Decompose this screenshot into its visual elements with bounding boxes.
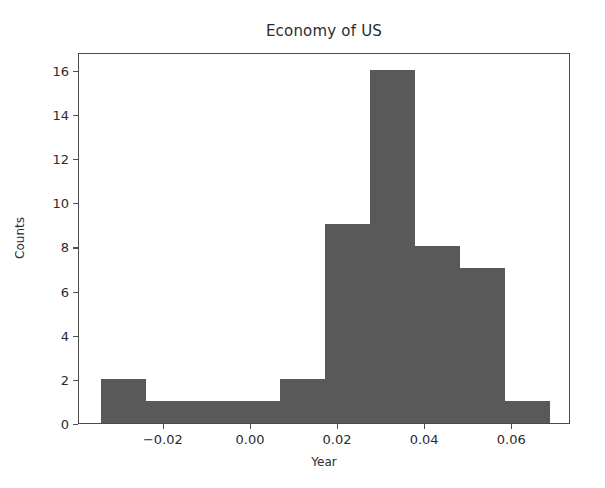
y-tick-mark [73,336,78,337]
y-tick-label: 2 [61,372,69,387]
histogram-bar [460,268,505,423]
x-tick-mark [337,424,338,429]
x-tick-mark [163,424,164,429]
histogram-bar [370,70,415,423]
y-tick-label: 4 [61,328,69,343]
y-tick-mark [73,203,78,204]
y-tick-mark [73,247,78,248]
histogram-bar [101,379,146,423]
x-tick-label: 0.06 [497,432,526,447]
histogram-figure: Economy of US −0.020.000.020.040.06 0246… [0,0,605,488]
y-axis-label: Counts [13,217,27,259]
histogram-bar [415,246,460,423]
y-tick-label: 6 [61,284,69,299]
y-tick-mark [73,159,78,160]
histogram-bar [191,401,236,423]
y-tick-mark [73,380,78,381]
x-tick-label: 0.04 [410,432,439,447]
y-tick-label: 10 [52,196,69,211]
histogram-bars [79,54,569,423]
x-tick-label: 0.00 [235,432,264,447]
y-tick-label: 0 [61,417,69,432]
y-tick-label: 12 [52,152,69,167]
x-tick-mark [424,424,425,429]
plot-area [78,53,570,424]
histogram-bar [235,401,280,423]
histogram-bar [325,224,370,423]
y-tick-mark [73,115,78,116]
y-tick-label: 14 [52,107,69,122]
y-tick-label: 16 [52,63,69,78]
histogram-bar [146,401,191,423]
x-tick-label: 0.02 [323,432,352,447]
y-tick-mark [73,292,78,293]
histogram-bar [505,401,550,423]
y-tick-label: 8 [61,240,69,255]
y-tick-mark [73,424,78,425]
x-tick-label: −0.02 [143,432,183,447]
x-axis-label: Year [78,455,570,469]
x-tick-mark [250,424,251,429]
x-tick-mark [511,424,512,429]
histogram-bar [280,379,325,423]
chart-title: Economy of US [78,22,570,40]
y-tick-mark [73,71,78,72]
